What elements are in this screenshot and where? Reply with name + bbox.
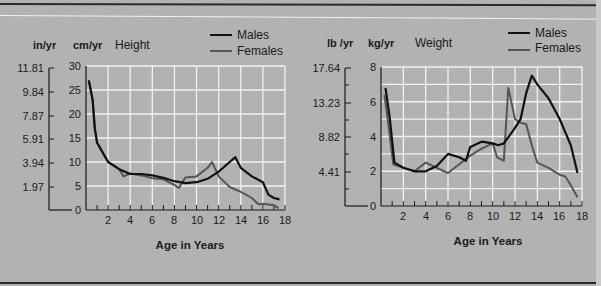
height-x-axis-label: Age in Years	[156, 239, 225, 251]
weight-secondary-tick-label: 17.64	[312, 62, 340, 74]
weight-y-tick-label: 4	[370, 131, 376, 143]
weight-males-line	[386, 76, 578, 173]
height-y-tick-label: 0	[75, 204, 81, 216]
weight-y-tick-label: 8	[370, 61, 376, 73]
weight-x-tick-label: 6	[445, 210, 451, 222]
weight-chart: lb /yr kg/yr Weight Males Females 17.64 …	[312, 26, 588, 247]
weight-primary-unit: kg/yr	[368, 37, 395, 49]
weight-grid	[381, 67, 582, 206]
height-primary-unit: cm/yr	[73, 39, 103, 51]
weight-x-ticks	[392, 201, 582, 206]
height-x-ticks	[97, 205, 285, 210]
weight-x-tick-label: 12	[509, 210, 521, 222]
height-x-tick-label: 12	[213, 214, 225, 226]
height-secondary-tick-label: 9.84	[23, 86, 44, 98]
height-x-tick-label: 6	[149, 214, 155, 226]
height-y-tick-label: 25	[69, 84, 81, 96]
legend-males-label: Males	[535, 26, 567, 40]
weight-chart-title: Weight	[415, 36, 453, 50]
height-chart: in/yr cm/yr Height Males Females 11.81 9…	[17, 28, 291, 251]
weight-secondary-tick-label: 4.41	[319, 166, 340, 178]
height-x-tick-label: 14	[235, 214, 247, 226]
legend-females-label: Females	[535, 41, 581, 55]
height-y-tick-label: 15	[69, 132, 81, 144]
height-y-tick-label: 20	[69, 108, 81, 120]
height-y-tick-label: 10	[69, 156, 81, 168]
charts-canvas: in/yr cm/yr Height Males Females 11.81 9…	[0, 0, 601, 286]
weight-secondary-ticks	[345, 68, 351, 189]
height-secondary-tick-label: 3.94	[23, 157, 44, 169]
weight-y-tick-label: 2	[370, 165, 376, 177]
weight-secondary-tick-label: 8.82	[319, 131, 340, 143]
weight-y-tick-label: 0	[370, 200, 376, 212]
height-males-line	[89, 80, 280, 199]
height-x-tick-label: 16	[257, 214, 269, 226]
height-secondary-tick-label: 11.81	[17, 62, 44, 74]
weight-x-tick-label: 8	[467, 210, 473, 222]
height-x-tick-label: 8	[171, 214, 177, 226]
weight-secondary-tick-label: 13.23	[312, 97, 340, 109]
height-females-line	[89, 80, 279, 208]
height-x-tick-label: 10	[191, 214, 203, 226]
height-x-tick-label: 4	[127, 214, 133, 226]
weight-x-tick-label: 16	[553, 210, 565, 222]
height-secondary-unit: in/yr	[33, 39, 57, 51]
height-secondary-tick-label: 5.91	[23, 133, 44, 145]
height-x-tick-label: 2	[105, 214, 111, 226]
legend-males-label: Males	[237, 28, 269, 42]
height-y-tick-label: 5	[75, 180, 81, 192]
weight-secondary-unit: lb /yr	[327, 37, 354, 49]
weight-x-tick-label: 4	[423, 210, 429, 222]
weight-x-tick-label: 14	[531, 210, 543, 222]
weight-x-tick-label: 10	[487, 210, 499, 222]
weight-x-tick-label: 2	[400, 210, 406, 222]
weight-y-tick-label: 6	[370, 96, 376, 108]
weight-x-axis-label: Age in Years	[454, 235, 523, 247]
height-secondary-tick-label: 1.97	[23, 181, 44, 193]
height-grid	[86, 66, 285, 210]
height-secondary-tick-label: 7.87	[23, 110, 44, 122]
height-secondary-ticks	[49, 68, 54, 187]
height-chart-title: Height	[115, 38, 150, 52]
height-x-tick-label: 18	[279, 214, 291, 226]
weight-x-tick-label: 18	[576, 210, 588, 222]
legend-females-label: Females	[237, 44, 283, 58]
height-y-tick-label: 30	[69, 60, 81, 72]
